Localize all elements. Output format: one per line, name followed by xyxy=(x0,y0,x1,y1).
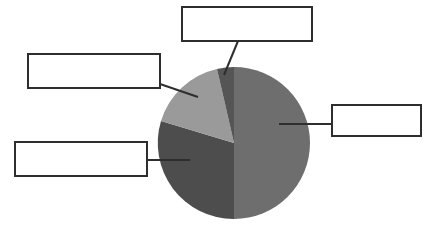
slice-right-half xyxy=(234,67,310,219)
label-box-right[interactable] xyxy=(331,104,422,137)
label-box-top[interactable] xyxy=(181,6,313,42)
label-box-left-lower[interactable] xyxy=(14,141,148,177)
label-box-left-upper[interactable] xyxy=(27,53,161,89)
